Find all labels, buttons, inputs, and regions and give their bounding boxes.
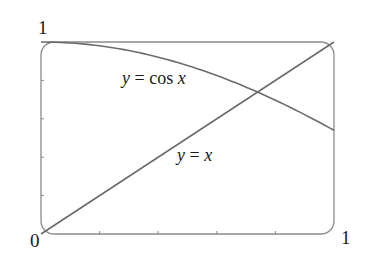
plot-canvas: 1 0 1 y = cos x y = x [0, 0, 368, 260]
y-max-label: 1 [38, 17, 48, 38]
cos-curve-label: y = cos x [120, 68, 186, 88]
x-max-label: 1 [341, 227, 351, 248]
line-curve-label: y = x [175, 145, 212, 165]
identity-line [41, 42, 334, 234]
origin-label: 0 [30, 230, 40, 251]
cos-curve [41, 42, 334, 130]
